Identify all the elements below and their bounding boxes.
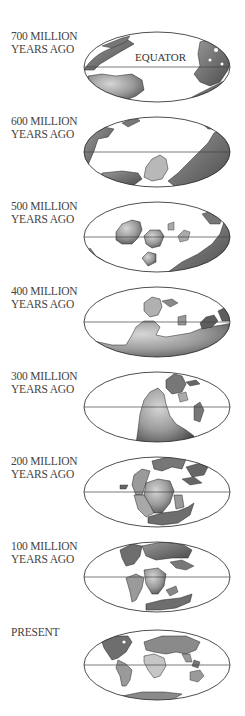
panel-100-mya: 100 MILLION YEARS AGO xyxy=(0,540,245,625)
age-label: 600 MILLION YEARS AGO xyxy=(11,115,77,141)
age-label-line1: 100 MILLION xyxy=(11,540,77,553)
age-label: 300 MILLION YEARS AGO xyxy=(11,370,77,396)
age-label: 400 MILLION YEARS AGO xyxy=(11,285,77,311)
age-label-line2: YEARS AGO xyxy=(11,383,77,396)
age-label-line2: YEARS AGO xyxy=(11,213,77,226)
age-label-line2: YEARS AGO xyxy=(11,43,77,56)
equator-label: EQUATOR xyxy=(135,51,187,63)
age-label-line2: YEARS AGO xyxy=(11,468,77,481)
globe-map-200-mya xyxy=(82,455,232,529)
globe-map-400-mya xyxy=(82,285,232,359)
age-label-line2: YEARS AGO xyxy=(11,298,77,311)
age-label: PRESENT xyxy=(11,626,59,639)
age-label-line1: 200 MILLION xyxy=(11,455,77,468)
age-label-line2: YEARS AGO xyxy=(11,128,77,141)
age-label: 100 MILLION YEARS AGO xyxy=(11,540,77,566)
globe-map-600-mya xyxy=(82,115,232,189)
age-label: 500 MILLION YEARS AGO xyxy=(11,200,77,226)
globe-map-700-mya: EQUATOR xyxy=(82,30,232,104)
age-label-line1: PRESENT xyxy=(11,626,59,639)
panel-present: PRESENT xyxy=(0,626,245,711)
age-label-line1: 300 MILLION xyxy=(11,370,77,383)
panel-700-mya: 700 MILLION YEARS AGO EQUATOR xyxy=(0,30,245,115)
age-label-line1: 600 MILLION xyxy=(11,115,77,128)
panel-400-mya: 400 MILLION YEARS AGO xyxy=(0,285,245,370)
age-label: 200 MILLION YEARS AGO xyxy=(11,455,77,481)
globe-map-300-mya xyxy=(82,370,232,444)
age-label-line1: 700 MILLION xyxy=(11,30,77,43)
globe-map-present xyxy=(82,628,232,702)
age-label-line1: 400 MILLION xyxy=(11,285,77,298)
globe-map-100-mya xyxy=(82,540,232,614)
age-label: 700 MILLION YEARS AGO xyxy=(11,30,77,56)
panel-500-mya: 500 MILLION YEARS AGO xyxy=(0,200,245,285)
globe-map-500-mya xyxy=(82,200,232,274)
panel-600-mya: 600 MILLION YEARS AGO xyxy=(0,115,245,200)
age-label-line2: YEARS AGO xyxy=(11,553,77,566)
panel-300-mya: 300 MILLION YEARS AGO xyxy=(0,370,245,455)
panel-200-mya: 200 MILLION YEARS AGO xyxy=(0,455,245,540)
age-label-line1: 500 MILLION xyxy=(11,200,77,213)
